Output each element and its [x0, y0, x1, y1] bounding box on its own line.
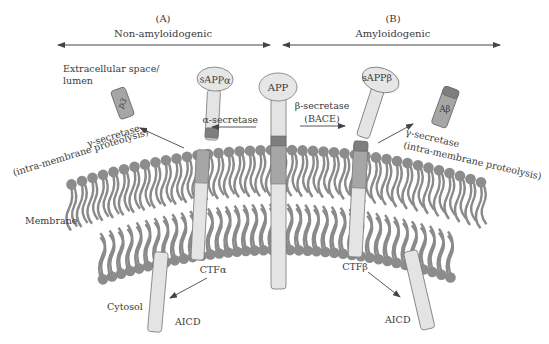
pathway-b-letter: (B): [385, 13, 400, 24]
ctfb-to-aicd-arrow: [368, 272, 400, 297]
pathway-b-name: Amyloidogenic: [355, 28, 431, 39]
lipid-head-top: [213, 148, 224, 159]
lipid-head-bottom: [98, 274, 109, 285]
extracellular-label-line1: Extracellular space/: [63, 63, 160, 74]
lipid-head-top: [224, 147, 235, 158]
sappa-fragment: sAPPα: [194, 66, 234, 141]
lipid-head-top: [476, 177, 487, 188]
lipid-head-top: [171, 153, 182, 164]
lipid-tail: [339, 153, 345, 199]
abeta-label: Aβ: [438, 104, 450, 114]
lipid-tail: [444, 173, 450, 219]
lipid-tail: [140, 164, 146, 210]
lipid-head-bottom: [436, 269, 447, 280]
lipid-tail: [297, 150, 303, 196]
app-protein: APP: [259, 73, 297, 289]
lipid-tail: [255, 150, 261, 196]
lipid-tail: [434, 170, 440, 216]
lipid-tail: [182, 157, 188, 203]
lipid-head-top: [161, 155, 172, 166]
membrane-label: Membrane: [25, 215, 78, 226]
lipid-head-bottom: [116, 268, 127, 279]
lipid-head-top: [371, 152, 382, 163]
lipid-head-bottom: [125, 266, 136, 277]
lipid-head-top: [297, 145, 308, 156]
lipid-tail: [224, 152, 230, 198]
lipid-tail: [98, 175, 104, 221]
lipid-tail: [455, 176, 461, 222]
lipid-head-bottom: [178, 253, 189, 264]
lipid-tail: [318, 152, 324, 198]
lipid-head-top: [129, 161, 140, 172]
lipid-head-bottom: [445, 272, 456, 283]
lipid-tail: [108, 172, 114, 218]
lipid-head-bottom: [170, 255, 181, 266]
beta-secretase-label-line2: (BACE): [304, 113, 339, 124]
lipid-head-top: [140, 159, 151, 170]
extracellular-label-line2: lumen: [63, 75, 93, 86]
lipid-head-top: [87, 173, 98, 184]
ctfa-to-aicd-arrow: [170, 278, 207, 298]
aicd-right-label: AICD: [384, 314, 411, 325]
lipid-tail: [329, 152, 335, 198]
lipid-tail: [392, 161, 398, 207]
lipid-head-top: [465, 174, 476, 185]
ctfb-fragment: [348, 141, 368, 258]
lipid-head-top: [308, 146, 319, 157]
lipid-tail: [476, 182, 482, 228]
sappa-label: sAPPα: [199, 73, 231, 86]
lipid-head-top: [77, 176, 88, 187]
aicd-left-label: AICD: [174, 316, 201, 327]
lipid-head-top: [287, 145, 298, 156]
ctfa-label: CTFα: [200, 264, 227, 275]
lipid-tail: [287, 150, 293, 196]
lipid-head-bottom: [382, 256, 393, 267]
lipid-tail: [87, 178, 93, 224]
lipid-tail: [465, 179, 471, 225]
lipid-head-bottom: [143, 261, 154, 272]
lipid-tail: [119, 169, 125, 215]
lipid-head-top: [381, 154, 392, 165]
beta-secretase-label-line1: β-secretase: [295, 100, 350, 111]
lipid-head-top: [413, 160, 424, 171]
sappb-label: sAPPβ: [362, 72, 393, 83]
lipid-head-top: [98, 169, 109, 180]
lipid-tail: [423, 168, 429, 214]
lipid-tail: [171, 158, 177, 204]
lipid-head-top: [119, 164, 130, 175]
lipid-head-bottom: [373, 254, 384, 265]
lipid-head-top: [255, 145, 266, 156]
lipid-head-top: [182, 152, 193, 163]
lipid-tail: [150, 162, 156, 208]
lipid-head-top: [423, 162, 434, 173]
alpha-secretase-label: α-secretase: [202, 114, 258, 125]
app-label: APP: [267, 82, 289, 93]
lipid-head-top: [329, 147, 340, 158]
ctfb-label: CTFβ: [342, 261, 368, 272]
lipid-head-top: [318, 146, 329, 157]
lipid-head-top: [66, 179, 77, 190]
lipid-tail: [77, 181, 83, 227]
lipid-head-top: [392, 156, 403, 167]
lipid-head-bottom: [391, 258, 402, 269]
app-processing-diagram: (A) Non-amyloidogenic (B) Amyloidogenic …: [0, 0, 549, 344]
lipid-tail: [245, 151, 251, 197]
lipid-head-top: [455, 171, 466, 182]
lipid-tail: [381, 159, 387, 205]
lipid-tail: [308, 151, 314, 197]
lipid-head-top: [339, 148, 350, 159]
lipid-head-bottom: [107, 271, 118, 282]
lipid-head-top: [234, 146, 245, 157]
lipid-tail: [129, 167, 135, 213]
pathway-a-letter: (A): [155, 13, 170, 24]
lipid-tail: [161, 160, 167, 206]
lipid-head-bottom: [427, 267, 438, 278]
lipid-head-top: [434, 165, 445, 176]
lipid-head-top: [150, 157, 161, 168]
lipid-head-top: [108, 167, 119, 178]
lipid-tail: [371, 157, 377, 203]
lipid-tail: [402, 163, 408, 209]
lipid-head-top: [444, 168, 455, 179]
lipid-head-bottom: [134, 263, 145, 274]
cytosol-label: Cytosol: [107, 301, 143, 312]
